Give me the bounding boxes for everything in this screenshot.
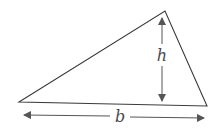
triangle-shape (19, 11, 207, 106)
base-arrow-right (130, 117, 204, 118)
triangle-diagram: h b (0, 0, 221, 134)
base-arrow-left (24, 115, 110, 116)
base-label: b (115, 107, 125, 126)
height-label: h (157, 46, 167, 65)
